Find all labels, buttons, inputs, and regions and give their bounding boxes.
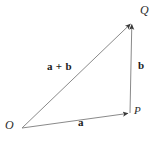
point-label-o: O — [5, 119, 14, 131]
vector-a-line — [22, 113, 128, 128]
vector-sum-line — [22, 24, 130, 128]
vector-label-a: a — [78, 117, 84, 128]
vector-diagram: O P Q a + b a b — [0, 0, 159, 145]
vector-label-a-plus-b: a + b — [47, 61, 72, 72]
vector-b-line — [130, 25, 132, 114]
vector-label-b: b — [138, 60, 144, 71]
point-label-q: Q — [140, 4, 149, 16]
point-label-p: P — [134, 105, 141, 116]
